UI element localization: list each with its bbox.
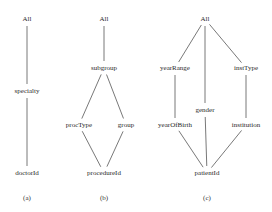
- node-c-institution: institution: [231, 122, 261, 129]
- edge-c-all-yearRange: [179, 25, 202, 62]
- node-b-all: All: [99, 16, 110, 23]
- edge-c-institution-patientId: [211, 130, 241, 167]
- caption-b: (b): [100, 195, 108, 202]
- node-b-group: group: [117, 122, 135, 129]
- edge-b-group-procedureId: [107, 131, 123, 166]
- hierarchy-diagrams: All specialty doctorId (a) All subgroup …: [0, 0, 272, 212]
- edge-c-gender-patientId: [205, 117, 207, 166]
- node-c-gender: gender: [194, 107, 215, 114]
- edge-layer: [0, 0, 272, 212]
- node-b-proctype: procType: [65, 122, 93, 129]
- node-a-doctorid: doctorId: [14, 170, 40, 177]
- edge-b-procType-procedureId: [82, 131, 101, 167]
- node-b-subgroup: subgroup: [90, 65, 118, 72]
- node-a-specialty: specialty: [14, 88, 41, 95]
- node-b-procedureid: procedureId: [86, 170, 122, 177]
- edge-b-subgroup-group: [107, 75, 124, 119]
- edge-b-subgroup-procType: [82, 74, 101, 118]
- node-c-patientid: patientId: [194, 170, 221, 177]
- node-c-yearofbirth: yearOfBirth: [157, 122, 193, 129]
- node-c-insttype: instType: [233, 65, 259, 72]
- caption-c: (c): [203, 195, 211, 202]
- node-c-all: All: [200, 16, 211, 23]
- edge-c-yearOfBirth-patientId: [179, 131, 203, 167]
- caption-a: (a): [23, 195, 31, 202]
- edge-c-all-instType: [209, 24, 241, 62]
- node-c-yearrange: yearRange: [159, 65, 191, 72]
- node-a-all: All: [22, 16, 33, 23]
